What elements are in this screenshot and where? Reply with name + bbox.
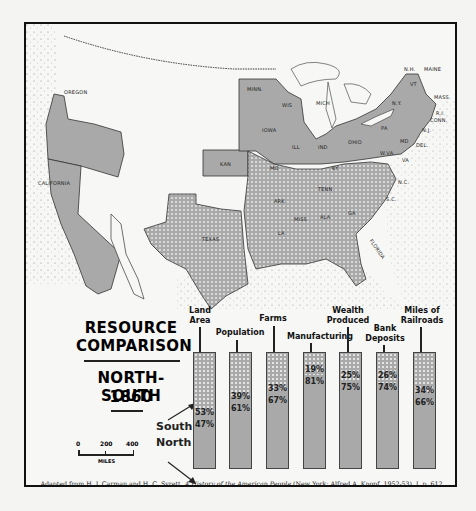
label-california: CALIFORNIA [38,180,70,186]
label-wva: W.VA. [380,150,395,156]
label-oregon: OREGON [64,89,87,95]
label-ill: ILL [292,144,300,150]
bar-bank-deposits: 26% 74% [376,352,399,469]
category-population: Population [212,328,268,338]
label-la: LA [278,230,285,236]
label-ri: R.I. [436,110,445,116]
label-va: VA [402,157,409,163]
label-mich: MICH [316,100,330,106]
label-nc: N.C. [398,179,409,185]
label-mass: MASS. [434,94,451,100]
scale-tick-0: 0 [76,440,80,447]
bar-railroads: 34% 66% [413,352,436,469]
label-mo: MO [270,165,279,171]
label-ny: N.Y. [392,100,402,106]
scale-tick-200: 200 [100,440,113,447]
category-wealth-produced: WealthProduced [323,306,373,326]
bar-farms: 33% 67% [266,352,289,469]
label-nh: N.H. [404,66,415,72]
label-texas: TEXAS [202,236,219,242]
scale-tick-400: 400 [126,440,139,447]
bar-land-area: 53% 47% [193,352,216,469]
label-tenn: TENN [318,186,333,192]
label-wis: WIS [282,102,292,108]
scale-bar: 0 200 400 MILES [76,440,136,470]
title-rule [84,360,180,362]
category-railroads: Miles ofRailroads [396,306,448,326]
title-comparison: COMPARISON [76,337,186,355]
label-kan: KAN [220,161,231,167]
category-bank-deposits: BankDeposits [360,324,410,344]
bar-population: 39% 61% [229,352,252,469]
scale-unit: MILES [98,458,115,464]
label-pa: PA [381,125,388,131]
label-maine: MAINE [424,66,441,72]
bar-manufacturing: 19% 81% [303,352,326,469]
bar-wealth-produced: 25% 75% [339,352,362,469]
label-ark: ARK [274,198,285,204]
year-rule [111,410,143,412]
category-land-area: LandArea [186,306,214,326]
label-minn: MINN. [247,86,263,92]
label-vt: VT [410,81,417,87]
category-farms: Farms [258,314,288,324]
label-del: DEL. [416,142,428,148]
source-caption: Adapted from H. J. Carman and H. C. Syre… [26,480,457,487]
category-manufacturing: Manufacturing [284,332,356,342]
label-ohio: OHIO [348,139,362,145]
label-md: MD [400,138,409,144]
label-nj: N.J. [422,127,431,133]
label-conn: CONN. [430,117,448,123]
label-ind: IND [318,144,328,150]
map-frame: OREGON CALIFORNIA KAN TEXAS MINN. WIS MI… [24,22,457,487]
title-resource: RESOURCE [76,319,186,337]
us-map [26,24,457,309]
label-ala: ALA [320,214,330,220]
label-miss: MISS [294,216,307,222]
label-sc: S.C. [386,196,397,202]
label-ky: KY [332,165,339,171]
label-iowa: IOWA [262,127,276,133]
label-ga: GA [348,210,356,216]
